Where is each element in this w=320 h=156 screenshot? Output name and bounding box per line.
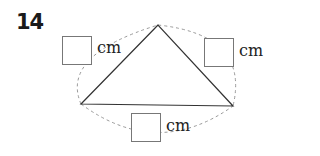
bottom-side-answer-box[interactable] [131,113,161,142]
left-side-answer-box[interactable] [62,36,92,65]
bottom-side-unit: cm [166,116,190,135]
right-side-unit: cm [239,41,263,60]
right-side-answer-box[interactable] [204,38,234,67]
left-side-unit: cm [97,38,121,57]
